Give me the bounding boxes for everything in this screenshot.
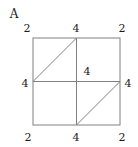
- label-bottom-left-corner: 2: [25, 132, 32, 143]
- figure-container: A 2 4 2 4 4 4 2 4 2: [0, 0, 138, 147]
- label-center: 4: [84, 66, 91, 77]
- label-top-right-corner: 2: [119, 23, 126, 34]
- label-top-left-corner: 2: [24, 23, 31, 34]
- label-left-middle: 4: [22, 78, 29, 89]
- label-top-middle: 4: [73, 23, 80, 34]
- label-right-middle: 4: [125, 78, 132, 89]
- diagonal-upper-left: [33, 38, 77, 82]
- diagram-canvas: [0, 0, 138, 147]
- diagonal-lower-right: [77, 82, 121, 126]
- label-bottom-right-corner: 2: [119, 132, 126, 143]
- label-bottom-middle: 4: [73, 132, 80, 143]
- figure-title: A: [10, 8, 19, 20]
